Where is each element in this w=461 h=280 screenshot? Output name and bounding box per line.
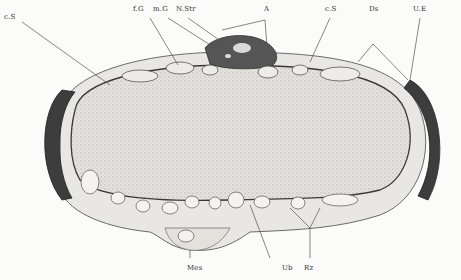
label-nstr: N.Str [176,5,196,13]
label-a: A [264,5,269,13]
cross-section-figure [0,0,461,280]
label-cs-left: c.S [4,13,16,21]
label-cs-right: c.S [325,5,337,13]
label-ds: Ds [369,5,379,13]
label-mg: m.G [153,5,168,13]
label-ue: U.E [413,5,426,13]
inner-body [71,65,410,200]
label-rz: Rz [304,264,313,272]
label-ub: Ub [282,264,293,272]
label-fg: f.G [133,5,144,13]
label-mes: Mes [187,264,203,272]
